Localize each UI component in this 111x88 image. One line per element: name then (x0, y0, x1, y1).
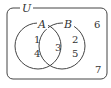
region-a-only-element: 1 (34, 34, 40, 45)
universe-label: U (22, 2, 32, 15)
region-outside-element: 6 (94, 19, 100, 30)
region-a-only-element: 4 (34, 48, 40, 59)
region-outside-element: 7 (95, 64, 101, 75)
set-a-label: A (37, 18, 46, 31)
venn-diagram: U A B 1 4 3 2 5 6 7 (0, 0, 111, 88)
region-b-only-element: 5 (72, 48, 78, 59)
region-b-only-element: 2 (72, 34, 78, 45)
set-b-label: B (63, 18, 72, 31)
region-intersection-element: 3 (55, 42, 61, 53)
